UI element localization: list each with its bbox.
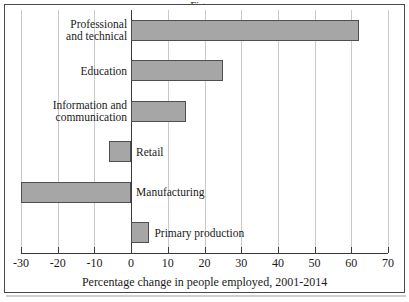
x-axis-tick [205, 247, 206, 253]
category-label: Information and communication [12, 99, 127, 124]
gridline [205, 10, 206, 253]
x-axis-tick-label: 0 [111, 256, 151, 270]
frame-shadow [6, 295, 406, 297]
x-axis-tick [278, 247, 279, 253]
bar [131, 60, 223, 81]
x-axis-tick-label: 40 [258, 256, 298, 270]
x-axis-tick-label: 10 [148, 256, 188, 270]
gridline [21, 10, 22, 253]
category-label: Professional and technical [12, 18, 127, 43]
gridline [278, 10, 279, 253]
x-axis-tick-label: 50 [295, 256, 335, 270]
gridline [241, 10, 242, 253]
chart-figure: Figure Percentage change in people emplo… [0, 0, 409, 302]
x-axis-tick-label: -20 [38, 256, 78, 270]
x-axis-tick-label: -10 [74, 256, 114, 270]
category-label: Primary production [154, 227, 354, 240]
bar [131, 101, 186, 122]
x-axis-tick [131, 247, 132, 253]
gridline [58, 10, 59, 253]
x-axis-tick [94, 247, 95, 253]
zero-line [131, 10, 132, 253]
x-axis-title: Percentage change in people employed, 20… [0, 275, 409, 289]
x-axis-tick [21, 247, 22, 253]
gridline [315, 10, 316, 253]
category-label: Education [12, 65, 127, 78]
x-axis-tick [168, 247, 169, 253]
x-axis-tick [58, 247, 59, 253]
bar [131, 222, 149, 243]
x-axis-tick-label: 20 [185, 256, 225, 270]
gridline [94, 10, 95, 253]
x-axis-tick [241, 247, 242, 253]
x-axis-tick-label: 60 [331, 256, 371, 270]
plot-area [21, 10, 388, 253]
gridline [388, 10, 389, 253]
x-axis-tick-label: -30 [1, 256, 41, 270]
x-axis-tick [351, 247, 352, 253]
x-axis-line [21, 253, 388, 254]
x-axis-tick-label: 30 [221, 256, 261, 270]
bar [21, 182, 131, 203]
x-axis-tick [388, 247, 389, 253]
bar [131, 20, 359, 41]
gridline [351, 10, 352, 253]
category-label: Manufacturing [136, 186, 336, 199]
bar [109, 141, 131, 162]
x-axis-tick [315, 247, 316, 253]
x-axis-tick-label: 70 [368, 256, 408, 270]
gridline [168, 10, 169, 253]
category-label: Retail [136, 146, 336, 159]
